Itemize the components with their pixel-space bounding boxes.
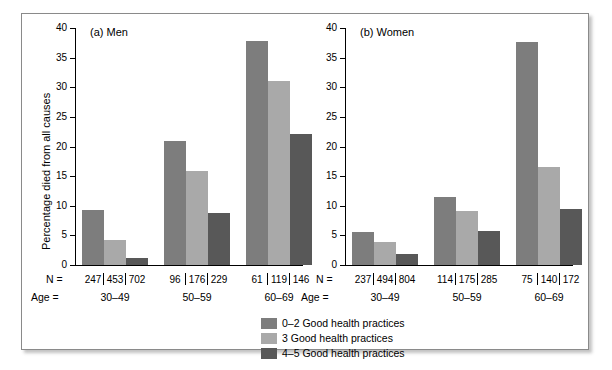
y-tick-a-30 — [70, 87, 75, 88]
n-separator-a-2-1 — [267, 273, 268, 285]
n-separator-b-0-2 — [395, 273, 396, 285]
bar-b-60-69-4-5 — [560, 209, 582, 265]
y-tick-label-b-20: 20 — [315, 142, 337, 152]
bar-a-60-69-4-5 — [290, 134, 312, 265]
n-value-a-1-1: 176 — [186, 275, 208, 285]
y-tick-a-0 — [70, 265, 75, 266]
legend-swatch-3-icon — [261, 333, 277, 344]
x-axis-men — [75, 265, 303, 266]
bar-a-30-49-3 — [104, 240, 126, 265]
bar-group-a-0 — [82, 28, 148, 265]
bar-a-60-69-0-2 — [246, 41, 268, 265]
n-row-label-women: N = — [316, 273, 333, 285]
n-separator-a-2-2 — [289, 273, 290, 285]
y-tick-a-15 — [70, 176, 75, 177]
y-tick-b-10 — [340, 206, 345, 207]
y-tick-a-10 — [70, 206, 75, 207]
n-value-a-0-1: 453 — [104, 275, 126, 285]
y-tick-a-5 — [70, 235, 75, 236]
bar-b-60-69-0-2 — [516, 42, 538, 265]
n-value-a-0-2: 702 — [126, 275, 148, 285]
y-tick-b-35 — [340, 58, 345, 59]
n-separator-b-1-2 — [477, 273, 478, 285]
bar-group-a-1 — [164, 28, 230, 265]
plot-area-women — [312, 28, 590, 265]
bar-a-50-59-0-2 — [164, 141, 186, 265]
n-value-a-2-0: 61 — [246, 275, 268, 285]
n-separator-b-1-1 — [455, 273, 456, 285]
bar-b-50-59-3 — [456, 211, 478, 265]
y-tick-a-35 — [70, 58, 75, 59]
n-value-b-2-2: 172 — [560, 275, 582, 285]
y-tick-label-a-40: 40 — [45, 23, 67, 33]
x-axis-women — [345, 265, 573, 266]
y-tick-label-a-35: 35 — [45, 53, 67, 63]
y-tick-label-b-0: 0 — [315, 260, 337, 270]
y-tick-b-15 — [340, 176, 345, 177]
figure-frame: (a) Men Percentage died from all causes … — [21, 13, 589, 350]
y-tick-a-40 — [70, 28, 75, 29]
y-tick-label-a-5: 5 — [45, 230, 67, 240]
n-separator-b-0-1 — [373, 273, 374, 285]
y-tick-b-40 — [340, 28, 345, 29]
age-label-a-0: 30–49 — [82, 292, 148, 303]
bar-group-b-1 — [434, 28, 500, 265]
y-tick-b-20 — [340, 147, 345, 148]
y-tick-label-b-25: 25 — [315, 112, 337, 122]
n-value-b-1-0: 114 — [434, 275, 456, 285]
n-separator-a-0-1 — [103, 273, 104, 285]
age-label-a-1: 50–59 — [164, 292, 230, 303]
n-value-a-1-0: 96 — [164, 275, 186, 285]
bar-group-b-0 — [352, 28, 418, 265]
y-tick-label-b-10: 10 — [315, 201, 337, 211]
bar-group-b-2 — [516, 28, 582, 265]
y-tick-b-0 — [340, 265, 345, 266]
n-value-a-2-2: 146 — [290, 275, 312, 285]
bar-b-50-59-4-5 — [478, 231, 500, 265]
n-value-a-1-2: 229 — [208, 275, 230, 285]
age-row-label-men: Age = — [31, 291, 59, 303]
n-row-label-men: N = — [46, 273, 63, 285]
n-value-b-1-1: 175 — [456, 275, 478, 285]
y-tick-label-a-0: 0 — [45, 260, 67, 270]
legend-label-3: 3 Good health practices — [282, 332, 434, 344]
y-tick-label-b-15: 15 — [315, 171, 337, 181]
n-value-b-0-0: 237 — [352, 275, 374, 285]
bar-a-50-59-3 — [186, 171, 208, 265]
bar-b-30-49-3 — [374, 242, 396, 265]
legend-swatch-4-5-icon — [261, 348, 277, 359]
bar-group-a-2 — [246, 28, 312, 265]
chart-panel-women: (b) Women N = Age = 23749480411417528575… — [312, 14, 590, 349]
bar-a-50-59-4-5 — [208, 213, 230, 265]
n-separator-a-1-1 — [185, 273, 186, 285]
bar-a-30-49-0-2 — [82, 210, 104, 265]
n-value-b-0-1: 494 — [374, 275, 396, 285]
y-tick-label-a-30: 30 — [45, 82, 67, 92]
n-value-a-0-0: 247 — [82, 275, 104, 285]
y-tick-a-20 — [70, 147, 75, 148]
age-label-b-2: 60–69 — [516, 292, 582, 303]
y-tick-label-a-20: 20 — [45, 142, 67, 152]
bar-b-30-49-4-5 — [396, 254, 418, 265]
legend-label-4-5: 4–5 Good health practices — [282, 347, 434, 359]
bar-a-30-49-4-5 — [126, 258, 148, 265]
n-separator-b-2-2 — [559, 273, 560, 285]
y-tick-label-a-15: 15 — [45, 171, 67, 181]
y-tick-label-b-40: 40 — [315, 23, 337, 33]
y-tick-label-b-5: 5 — [315, 230, 337, 240]
y-tick-label-a-25: 25 — [45, 112, 67, 122]
y-tick-label-b-30: 30 — [315, 82, 337, 92]
y-tick-label-b-35: 35 — [315, 53, 337, 63]
n-separator-a-1-2 — [207, 273, 208, 285]
bar-b-50-59-0-2 — [434, 197, 456, 265]
n-value-b-2-1: 140 — [538, 275, 560, 285]
age-row-label-women: Age = — [301, 291, 329, 303]
legend-swatch-0-2-icon — [261, 318, 277, 329]
age-label-b-1: 50–59 — [434, 292, 500, 303]
n-value-b-2-0: 75 — [516, 275, 538, 285]
legend-label-0-2: 0–2 Good health practices — [282, 317, 434, 329]
y-tick-label-a-10: 10 — [45, 201, 67, 211]
age-label-b-0: 30–49 — [352, 292, 418, 303]
y-tick-b-25 — [340, 117, 345, 118]
y-tick-a-25 — [70, 117, 75, 118]
